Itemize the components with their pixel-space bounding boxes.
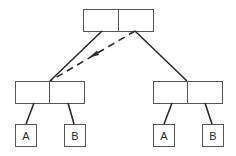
right-child-left-cell — [154, 82, 188, 104]
leaf-label: A — [22, 130, 30, 142]
right-child-node — [154, 82, 223, 104]
arrowhead-icon — [89, 51, 99, 58]
leaf-label: B — [209, 130, 216, 142]
edge-right-child-to-leaf-a — [164, 103, 172, 124]
left-child-node — [16, 82, 85, 104]
edge-left-child-to-leaf-b — [68, 103, 74, 124]
root-node — [84, 10, 154, 32]
edge-root-to-right-child — [135, 31, 187, 81]
leaf-right-a: A — [154, 125, 175, 147]
dashed-pointer-arrow — [50, 31, 135, 81]
leaf-label: B — [71, 130, 78, 142]
left-child-right-cell — [50, 82, 85, 104]
leaf-label: A — [160, 130, 168, 142]
right-child-right-cell — [188, 82, 223, 104]
edge-right-child-to-leaf-b — [205, 103, 212, 124]
leaf-left-a: A — [16, 125, 37, 147]
leaf-right-b: B — [203, 125, 224, 147]
leaf-left-b: B — [65, 125, 86, 147]
left-child-left-cell — [16, 82, 50, 104]
root-right-cell — [119, 10, 154, 32]
root-left-cell — [84, 10, 119, 32]
tree-diagram: A B A B — [0, 0, 236, 156]
edge-left-child-to-leaf-a — [26, 103, 34, 124]
